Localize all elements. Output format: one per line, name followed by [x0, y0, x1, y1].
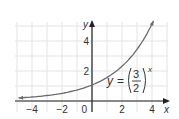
y-axis-arrow-icon: [89, 20, 95, 27]
x-tick-label: 4: [149, 104, 155, 115]
y-tick-label: 4: [83, 36, 89, 47]
x-tick-label: −2: [56, 104, 68, 115]
x-tick-label: 0: [81, 104, 87, 115]
x-tick-label: −4: [26, 104, 38, 115]
equation-label: y = 3 2 x: [106, 65, 153, 94]
eq-equals: =: [117, 74, 124, 88]
eq-lhs: y: [106, 74, 114, 88]
exponential-chart: −4−202424 x y y = 3 2 x: [0, 0, 179, 119]
y-tick-label: 2: [83, 66, 89, 77]
curve-arrow-icon: [19, 96, 24, 100]
eq-denominator: 2: [133, 82, 139, 94]
right-paren: [143, 68, 146, 93]
y-axis-label: y: [82, 19, 89, 30]
x-tick-label: 2: [119, 104, 125, 115]
left-paren: [129, 68, 132, 93]
eq-numerator: 3: [133, 68, 139, 80]
x-axis-label: x: [163, 104, 170, 115]
